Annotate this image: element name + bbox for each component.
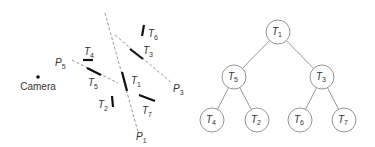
tree-node-t2: T2 [245, 108, 269, 132]
camera-dot-icon [36, 75, 40, 79]
segment-t2-label: T2 [98, 99, 108, 112]
segment-t5 [87, 68, 101, 75]
plane-p1-label: P1 [136, 131, 147, 144]
tree-node-t3: T3 [310, 65, 334, 89]
partition-planes: P5P1P3 [55, 13, 184, 144]
segment-t3 [130, 49, 143, 59]
bsp-tree: T1T5T3T4T2T6T7 [200, 20, 356, 132]
segment-t2 [112, 96, 113, 107]
segment-t5-label: T5 [88, 77, 98, 90]
tree-nodes: T1T5T3T4T2T6T7 [200, 20, 356, 132]
tree-node-t7: T7 [332, 108, 356, 132]
segment-t6-label: T6 [148, 28, 158, 41]
plane-p3-label: P3 [173, 83, 184, 96]
scene-segments: T4T5T1T3T6T2T7 [83, 25, 158, 118]
plane-p5-label: P5 [55, 57, 66, 70]
segment-t4-label: T4 [84, 46, 94, 59]
tree-node-t6: T6 [288, 108, 312, 132]
camera-label: Camera [20, 81, 56, 92]
tree-node-t1: T1 [266, 20, 290, 44]
tree-node-t5: T5 [222, 65, 246, 89]
segment-t7 [139, 95, 155, 101]
segment-t7-label: T7 [142, 105, 152, 118]
segment-t3-label: T3 [143, 45, 153, 58]
segment-t1-label: T1 [131, 75, 141, 88]
bsp-diagram: P5P1P3 T4T5T1T3T6T2T7 Camera T1T5T3T4T2T… [0, 0, 375, 147]
segment-t1 [122, 72, 127, 91]
tree-node-t4: T4 [200, 108, 224, 132]
segment-t6 [142, 25, 144, 36]
scene-panel: P5P1P3 T4T5T1T3T6T2T7 Camera [20, 13, 183, 144]
camera: Camera [20, 75, 56, 92]
